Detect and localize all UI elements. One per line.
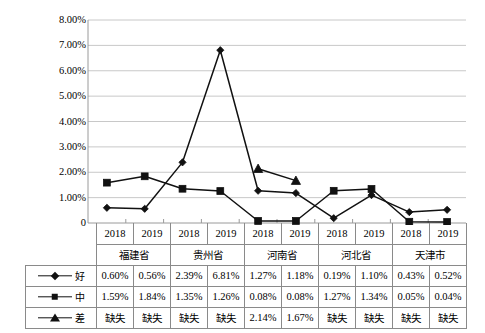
table-data-cell: 0.08% — [282, 286, 319, 307]
data-point-square — [179, 185, 186, 192]
y-tick-label: 6.00% — [28, 66, 86, 76]
legend-label: 差 — [75, 310, 85, 325]
y-tick-label: 1.00% — [28, 193, 86, 203]
table-year-cell: 2019 — [134, 223, 171, 244]
table-data-cell: 2.39% — [171, 265, 208, 286]
line-chart-plot: 8.00%7.00%6.00%5.00%4.00%3.00%2.00%1.00%… — [0, 0, 485, 225]
y-tick-label: 5.00% — [28, 91, 86, 101]
table-data-cell: 缺失 — [430, 307, 467, 328]
data-point-square — [217, 188, 224, 195]
y-tick-label: 4.00% — [28, 117, 86, 127]
table-data-cell: 0.08% — [245, 286, 282, 307]
data-point-diamond — [217, 47, 224, 54]
table-data-cell: 缺失 — [208, 307, 245, 328]
table-province-cell: 贵州省 — [171, 244, 245, 265]
y-tick-label: 3.00% — [28, 142, 86, 152]
series-diamond — [103, 47, 450, 222]
table-data-cell: 缺失 — [97, 307, 134, 328]
legend-label: 中 — [75, 289, 85, 304]
data-point-diamond — [255, 187, 262, 194]
legend-cell-triangle: 差 — [26, 307, 97, 328]
corner-cell — [26, 223, 97, 244]
legend-cell-square: 中 — [26, 286, 97, 307]
data-point-diamond — [444, 206, 451, 213]
y-tick-label: 8.00% — [28, 15, 86, 25]
y-tick-label: 2.00% — [28, 167, 86, 177]
table-data-cell: 1.84% — [134, 286, 171, 307]
data-point-square — [141, 173, 148, 180]
y-axis-tick-labels: 8.00%7.00%6.00%5.00%4.00%3.00%2.00%1.00%… — [22, 0, 86, 225]
table-data-cell: 0.56% — [134, 265, 171, 286]
data-point-diamond — [103, 204, 110, 211]
table-year-cell: 2018 — [393, 223, 430, 244]
series-line — [258, 169, 296, 181]
data-point-square — [330, 187, 337, 194]
table-data-cell: 0.05% — [393, 286, 430, 307]
data-point-diamond — [406, 208, 413, 215]
table-province-cell: 河北省 — [319, 244, 393, 265]
table-year-cell: 2019 — [282, 223, 319, 244]
table-data-cell: 1.27% — [245, 265, 282, 286]
table-data-cell: 1.18% — [282, 265, 319, 286]
table-data-cell: 缺失 — [171, 307, 208, 328]
diamond-marker-icon — [38, 271, 72, 281]
table-year-cell: 2018 — [319, 223, 356, 244]
table-province-cell: 河南省 — [245, 244, 319, 265]
table-province-cell: 天津市 — [393, 244, 467, 265]
triangle-marker-icon — [38, 313, 72, 323]
table-year-cell: 2018 — [171, 223, 208, 244]
table-data-cell: 1.10% — [356, 265, 393, 286]
table-data-cell: 0.19% — [319, 265, 356, 286]
data-point-triangle — [254, 164, 263, 172]
series-line — [107, 176, 447, 222]
chart-figure: 8.00%7.00%6.00%5.00%4.00%3.00%2.00%1.00%… — [0, 0, 485, 333]
data-table: 2018201920182019201820192018201920182019… — [25, 223, 467, 329]
table-data-cell: 0.04% — [430, 286, 467, 307]
table-year-cell: 2019 — [430, 223, 467, 244]
table-year-cell: 2019 — [208, 223, 245, 244]
table-year-cell: 2018 — [97, 223, 134, 244]
square-marker-icon — [38, 292, 72, 302]
table-data-cell: 1.26% — [208, 286, 245, 307]
table-data-cell: 1.59% — [97, 286, 134, 307]
table-data-cell: 缺失 — [393, 307, 430, 328]
table-row: 差缺失缺失缺失缺失2.14%1.67%缺失缺失缺失缺失 — [26, 307, 467, 328]
table-data-cell: 0.60% — [97, 265, 134, 286]
series-square — [104, 173, 451, 225]
legend-label: 好 — [75, 268, 85, 283]
table-data-cell: 1.67% — [282, 307, 319, 328]
table-data-cell: 缺失 — [319, 307, 356, 328]
table-row: 好0.60%0.56%2.39%6.81%1.27%1.18%0.19%1.10… — [26, 265, 467, 286]
data-table-wrap: 2018201920182019201820192018201920182019… — [25, 223, 466, 329]
data-point-square — [104, 179, 111, 186]
table-data-cell: 2.14% — [245, 307, 282, 328]
table-year-header-row: 2018201920182019201820192018201920182019 — [26, 223, 467, 244]
table-year-cell: 2018 — [245, 223, 282, 244]
table-data-cell: 缺失 — [134, 307, 171, 328]
series-layer — [103, 47, 450, 225]
table-data-cell: 0.52% — [430, 265, 467, 286]
table-data-cell: 0.43% — [393, 265, 430, 286]
table-province-cell: 福建省 — [97, 244, 171, 265]
table-data-cell: 6.81% — [208, 265, 245, 286]
table-row: 中1.59%1.84%1.35%1.26%0.08%0.08%1.27%1.34… — [26, 286, 467, 307]
y-tick-label: 7.00% — [28, 40, 86, 50]
table-data-cell: 缺失 — [356, 307, 393, 328]
table-province-header-row: 福建省贵州省河南省河北省天津市 — [26, 244, 467, 265]
data-point-square — [368, 186, 375, 193]
table-data-cell: 1.35% — [171, 286, 208, 307]
corner-cell-2 — [26, 244, 97, 265]
series-triangle — [254, 164, 301, 184]
table-year-cell: 2019 — [356, 223, 393, 244]
legend-cell-diamond: 好 — [26, 265, 97, 286]
table-data-cell: 1.27% — [319, 286, 356, 307]
table-data-cell: 1.34% — [356, 286, 393, 307]
series-line — [107, 50, 447, 218]
